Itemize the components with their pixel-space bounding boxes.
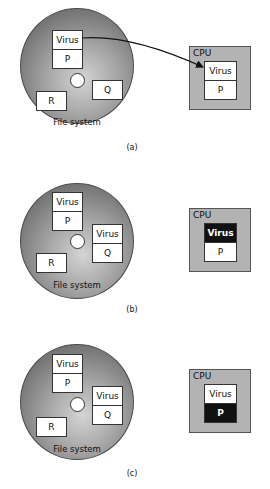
cpu-loaded-program: Virus P <box>204 223 237 262</box>
virus-segment: Virus <box>93 387 122 405</box>
file-system-label: File system <box>20 280 134 290</box>
file-r: R <box>36 253 67 273</box>
program-q-segment: Q <box>93 405 122 424</box>
cpu-loaded-program: Virus P <box>204 384 237 423</box>
file-p-infected: Virus P <box>52 192 83 231</box>
program-p-segment: P <box>205 242 236 261</box>
caption-b: (b) <box>0 305 264 314</box>
virus-segment: Virus <box>53 193 82 211</box>
cpu-box: CPU Virus P <box>189 369 251 433</box>
program-q-segment: Q <box>93 243 122 262</box>
panel-c: Virus P Virus Q R File system CPU Virus … <box>0 324 270 489</box>
program-r-segment: R <box>37 254 66 272</box>
disk-hole <box>70 234 85 249</box>
file-p-infected: Virus P <box>52 354 83 393</box>
cpu-label: CPU <box>193 371 211 381</box>
program-r-segment: R <box>37 418 66 436</box>
virus-segment: Virus <box>93 225 122 243</box>
program-p-segment-executing: P <box>205 403 236 422</box>
virus-segment: Virus <box>53 355 82 373</box>
file-system-label: File system <box>20 444 134 454</box>
program-p-segment: P <box>53 373 82 392</box>
panel-a: Virus P Q R File system CPU Virus P (a) <box>0 0 270 160</box>
virus-segment: Virus <box>205 385 236 403</box>
file-r: R <box>36 417 67 437</box>
disk-hole <box>70 397 85 412</box>
file-q-infected: Virus Q <box>92 386 123 425</box>
program-p-segment: P <box>53 211 82 230</box>
virus-segment-executing: Virus <box>205 224 236 242</box>
file-q-infected: Virus Q <box>92 224 123 263</box>
cpu-label: CPU <box>193 210 211 220</box>
load-arrow <box>0 0 270 160</box>
panel-b: Virus P Virus Q R File system CPU Virus … <box>0 162 270 322</box>
caption-a: (a) <box>0 143 264 152</box>
caption-c: (c) <box>0 469 264 478</box>
cpu-box: CPU Virus P <box>189 208 251 272</box>
